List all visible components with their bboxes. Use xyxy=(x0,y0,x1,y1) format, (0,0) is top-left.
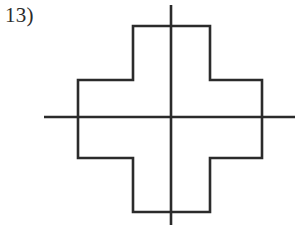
cross-figure-svg xyxy=(0,0,301,231)
figure-page: 13) xyxy=(0,0,301,231)
